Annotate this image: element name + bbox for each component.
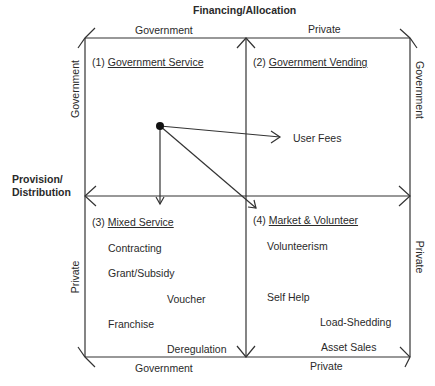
quadrant-2-number: (2) <box>253 56 266 68</box>
quadrant-1-title: Government Service <box>108 56 204 68</box>
right-upper-label: Government <box>414 55 426 125</box>
quadrant-1-heading: (1) Government Service <box>92 56 203 68</box>
quadrant-4-item-volunteerism: Volunteerism <box>267 240 328 252</box>
top-left-label: Government <box>135 24 193 36</box>
quadrant-2-heading: (2) Government Vending <box>253 56 367 68</box>
left-axis-title-line1: Provision/ <box>12 173 63 186</box>
quadrant-4-item-self-help: Self Help <box>267 291 310 303</box>
quadrant-3-item-contracting: Contracting <box>108 242 162 254</box>
quadrant-4-heading: (4) Market & Volunteer <box>253 214 358 226</box>
quadrant-2-item-user-fees: User Fees <box>293 132 341 144</box>
quadrant-4-title: Market & Volunteer <box>269 214 358 226</box>
bottom-left-label: Government <box>135 362 193 374</box>
origin-dot-icon <box>156 122 164 130</box>
quadrant-1-number: (1) <box>92 56 105 68</box>
quadrant-4-item-asset-sales: Asset Sales <box>321 341 376 353</box>
quadrant-3-heading: (3) Mixed Service <box>92 216 174 228</box>
quadrant-3-number: (3) <box>92 216 105 228</box>
quadrant-3-item-franchise: Franchise <box>108 318 154 330</box>
left-axis-title-line2: Distribution <box>12 186 71 199</box>
quadrant-3-item-voucher: Voucher <box>167 293 206 305</box>
top-axis-title: Financing/Allocation <box>193 4 296 16</box>
quadrant-4-item-load-shedding: Load-Shedding <box>320 316 391 328</box>
quadrant-3-title: Mixed Service <box>108 216 174 228</box>
quadrant-4-number: (4) <box>253 214 266 226</box>
quadrant-3-item-grant-subsidy: Grant/Subsidy <box>108 267 175 279</box>
right-lower-label: Private <box>414 232 426 282</box>
bottom-right-label: Private <box>310 360 343 372</box>
quadrant-2-title: Government Vending <box>269 56 368 68</box>
left-lower-label: Private <box>69 252 81 302</box>
arrow-to-user-fees <box>160 126 280 137</box>
quadrant-3-item-deregulation: Deregulation <box>167 343 227 355</box>
top-right-label: Private <box>308 23 341 35</box>
left-upper-label: Government <box>69 54 81 124</box>
